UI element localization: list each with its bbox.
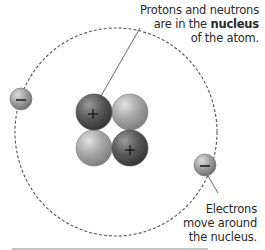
electron-left — [10, 88, 32, 110]
nucleus — [76, 94, 148, 166]
electrons-label-line1: Electrons — [137, 202, 257, 216]
electrons-label: Electrons move around the nucleus. — [137, 202, 257, 244]
nucleus-label-line3: of the atom. — [99, 31, 259, 45]
electron-leader-line — [208, 176, 218, 193]
electron-right — [194, 154, 216, 176]
neutron-bottom-left — [76, 130, 112, 166]
nucleus-term: nucleus — [210, 17, 259, 31]
proton-top-left — [76, 94, 112, 130]
nucleus-label-line2: are in the nucleus — [99, 17, 259, 31]
electrons-label-line3: the nucleus. — [137, 230, 257, 244]
nucleus-label: Protons and neutrons are in the nucleus … — [99, 3, 259, 45]
electrons-label-line2: move around — [137, 216, 257, 230]
nucleus-label-prefix: are in the — [154, 17, 211, 31]
nucleus-label-line1: Protons and neutrons — [99, 3, 259, 17]
neutron-top-right — [112, 94, 148, 130]
